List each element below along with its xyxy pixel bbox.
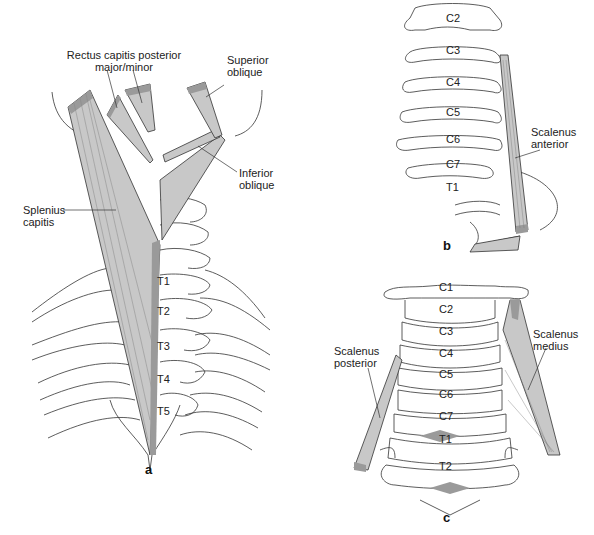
label-line: medius: [533, 340, 578, 352]
scalenus-anterior-muscle: [500, 55, 528, 234]
vertebra-label-c5: C5: [439, 368, 453, 380]
vertebra-label-t4: T4: [157, 373, 170, 385]
label-line: Splenius: [23, 204, 65, 216]
label-superior-oblique: Superior oblique: [227, 54, 269, 78]
inferior-oblique-muscle: [160, 130, 225, 240]
vertebra-label-c3: C3: [439, 325, 453, 337]
vertebra-label-t2: T2: [439, 460, 452, 472]
label-inferior-oblique: Inferior oblique: [239, 167, 274, 191]
vertebra-label-c7: C7: [439, 410, 453, 422]
label-line: oblique: [239, 179, 274, 191]
label-rectus-capitis-posterior: Rectus capitis posterior major/minor: [60, 49, 188, 73]
label-line: oblique: [227, 66, 269, 78]
scalenus-medius-muscle: [503, 300, 560, 455]
label-scalenus-posterior: Scalenus posterior: [334, 345, 379, 369]
label-line: Scalenus: [533, 328, 578, 340]
vertebra-label-t1: T1: [157, 275, 170, 287]
vertebra-label-c6: C6: [446, 133, 460, 145]
panel-label-a: a: [145, 462, 152, 477]
label-scalenus-anterior: Scalenus anterior: [531, 126, 576, 150]
anatomy-illustration: [0, 0, 594, 535]
label-line: major/minor: [60, 61, 188, 73]
vertebra-label-t3: T3: [157, 340, 170, 352]
vertebra-label-t5: T5: [157, 405, 170, 417]
vertebra-label-c3: C3: [446, 44, 460, 56]
vertebra-label-c4: C4: [439, 347, 453, 359]
label-line: Inferior: [239, 167, 274, 179]
vertebra-label-t1: T1: [439, 433, 452, 445]
label-line: capitis: [23, 216, 65, 228]
vertebra-label-c7: C7: [446, 158, 460, 170]
vertebra-label-c4: C4: [446, 76, 460, 88]
panel-b-drawing: [397, 4, 558, 246]
panel-label-b: b: [443, 238, 451, 253]
splenius-capitis-muscle: [68, 90, 160, 455]
vertebra-label-c1: C1: [439, 281, 453, 293]
vertebra-label-c2: C2: [439, 303, 453, 315]
vertebra-label-c6: C6: [439, 388, 453, 400]
disc-shape: [430, 482, 470, 494]
label-scalenus-medius: Scalenus medius: [533, 328, 578, 352]
label-line: Scalenus: [531, 126, 576, 138]
label-line: anterior: [531, 138, 576, 150]
vertebra-label-t1: T1: [446, 181, 459, 193]
label-splenius-capitis: Splenius capitis: [23, 204, 65, 228]
vertebra-label-t2: T2: [157, 305, 170, 317]
panel-label-c: c: [443, 510, 450, 525]
label-line: posterior: [334, 357, 379, 369]
label-line: Rectus capitis posterior: [60, 49, 188, 61]
superior-oblique-muscle: [187, 82, 222, 138]
vertebra-label-c5: C5: [446, 106, 460, 118]
label-line: Superior: [227, 54, 269, 66]
vertebra-label-c2: C2: [446, 12, 460, 24]
clavicle-shape: [470, 236, 520, 252]
label-line: Scalenus: [334, 345, 379, 357]
